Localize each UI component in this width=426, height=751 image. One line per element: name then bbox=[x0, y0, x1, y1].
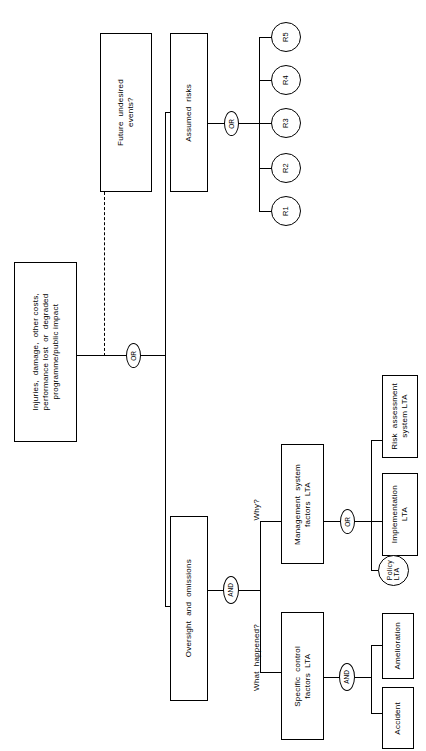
node-specific-control-factors[interactable]: Specific control factors LTA bbox=[281, 612, 324, 740]
node-specific-control-factors-label: Specific control factors LTA bbox=[293, 646, 313, 707]
gate-oversight-and[interactable]: AND bbox=[223, 576, 239, 604]
gate-oversight-and-label: AND bbox=[227, 583, 235, 597]
gate-top-or-label: OR bbox=[130, 351, 138, 361]
node-future-undesired-events-label: Future undesired events? bbox=[116, 79, 136, 146]
line-assumed-risks-to-or bbox=[208, 123, 225, 124]
line-management-or-to-bus bbox=[355, 521, 372, 522]
line-specific-to-and bbox=[324, 677, 340, 678]
node-risk-assessment-system[interactable]: Risk assessment system LTA bbox=[382, 375, 418, 458]
event-circle-r3-label: R3 bbox=[281, 118, 290, 128]
node-losses[interactable]: Injuries, damage, other costs, performan… bbox=[14, 262, 77, 442]
node-amelioration[interactable]: Amelioration bbox=[382, 613, 414, 679]
node-assumed-risks[interactable]: Assumed risks bbox=[170, 33, 208, 192]
event-circle-r1[interactable]: R1 bbox=[271, 196, 301, 226]
event-circle-r4[interactable]: R4 bbox=[271, 65, 301, 95]
line-management-children-bus bbox=[371, 440, 372, 571]
label-what-happened: What happened? bbox=[243, 615, 262, 702]
line-spine-to-assumed-risks bbox=[165, 112, 171, 113]
node-implementation-label: Implementation LTA bbox=[390, 485, 410, 543]
label-why-text: Why? bbox=[252, 499, 262, 520]
gate-specific-and[interactable]: AND bbox=[339, 663, 355, 691]
node-assumed-risks-label: Assumed risks bbox=[184, 84, 194, 142]
line-top-or-to-spine bbox=[140, 355, 166, 356]
gate-risks-or[interactable]: OR bbox=[224, 111, 239, 136]
line-spine-to-oversight bbox=[165, 606, 171, 607]
line-losses-to-top-or bbox=[77, 355, 126, 356]
line-specific-and-to-bus bbox=[355, 677, 372, 678]
label-why: Why? bbox=[243, 490, 262, 531]
node-future-undesired-events[interactable]: Future undesired events? bbox=[100, 33, 152, 192]
node-management-system-factors-label: Management system factors LTA bbox=[293, 464, 313, 545]
line-risk-bus bbox=[259, 37, 260, 212]
event-circle-policy[interactable]: Policy LTA bbox=[378, 555, 409, 586]
event-circle-r1-label: R1 bbox=[281, 206, 290, 216]
line-branch-to-management bbox=[260, 521, 282, 522]
line-risks-or-to-bus bbox=[239, 123, 260, 124]
node-losses-label: Injuries, damage, other costs, performan… bbox=[31, 293, 60, 410]
line-top-spine bbox=[165, 112, 166, 607]
fault-tree-diagram: Injuries, damage, other costs, performan… bbox=[0, 0, 426, 751]
line-and-to-branch bbox=[239, 590, 261, 591]
event-circle-r3[interactable]: R3 bbox=[271, 108, 301, 138]
gate-specific-and-label: AND bbox=[343, 670, 351, 684]
event-circle-r2[interactable]: R2 bbox=[271, 153, 301, 183]
node-implementation[interactable]: Implementation LTA bbox=[382, 473, 418, 556]
label-what-happened-text: What happened? bbox=[252, 624, 262, 691]
line-management-to-or bbox=[324, 521, 341, 522]
line-specific-children-bus bbox=[371, 645, 372, 714]
gate-management-or-label: OR bbox=[344, 517, 352, 527]
node-management-system-factors[interactable]: Management system factors LTA bbox=[281, 444, 324, 564]
node-oversight-and-omissions-label: Oversight and omissions bbox=[184, 559, 194, 657]
line-branch-to-specific bbox=[260, 672, 282, 673]
node-accident-label: Accident bbox=[393, 702, 403, 735]
event-circle-policy-label: Policy LTA bbox=[386, 560, 401, 580]
event-circle-r5[interactable]: R5 bbox=[271, 22, 301, 52]
gate-top-or[interactable]: OR bbox=[126, 343, 141, 368]
node-oversight-and-omissions[interactable]: Oversight and omissions bbox=[170, 516, 208, 701]
node-risk-assessment-system-label: Risk assessment system LTA bbox=[390, 383, 410, 450]
gate-management-or[interactable]: OR bbox=[340, 509, 355, 534]
node-amelioration-label: Amelioration bbox=[393, 622, 403, 669]
node-accident[interactable]: Accident bbox=[382, 687, 414, 749]
event-circle-r5-label: R5 bbox=[281, 32, 290, 42]
event-circle-r2-label: R2 bbox=[281, 163, 290, 173]
event-circle-r4-label: R4 bbox=[281, 75, 290, 85]
line-oversight-to-and bbox=[208, 590, 224, 591]
line-dashed-future-events bbox=[104, 192, 105, 356]
gate-risks-or-label: OR bbox=[228, 119, 236, 129]
